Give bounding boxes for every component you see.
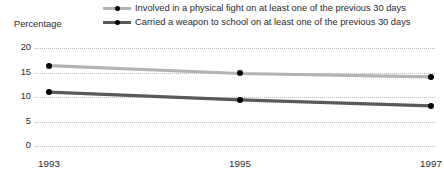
x-axis-tick-labels: 199319951997	[35, 158, 435, 172]
y-axis-tick-label: 5	[5, 117, 31, 126]
legend-item-carried-weapon: Carried a weapon to school on at least o…	[103, 16, 443, 29]
chart-legend: Involved in a physical fight on at least…	[103, 2, 443, 30]
y-axis-tick-label: 15	[5, 68, 31, 77]
data-point-marker	[237, 97, 243, 103]
legend-marker-physical-fight	[115, 6, 120, 11]
gridline	[35, 146, 435, 147]
x-axis-tick-label: 1997	[420, 158, 442, 170]
legend-label-physical-fight: Involved in a physical fight on at least…	[135, 3, 406, 14]
y-axis-title: Percentage	[14, 19, 62, 29]
legend-marker-carried-weapon	[115, 20, 120, 25]
x-axis-tick-label: 1993	[38, 158, 60, 170]
legend-label-carried-weapon: Carried a weapon to school on at least o…	[135, 17, 410, 28]
data-point-marker	[428, 103, 434, 109]
plot-area	[35, 48, 435, 146]
series-lines	[35, 48, 435, 146]
data-point-marker	[428, 74, 434, 80]
y-axis-tick-label: 10	[5, 92, 31, 101]
y-axis-tick-label: 20	[5, 43, 31, 52]
data-point-marker	[46, 63, 52, 69]
x-axis-tick-label: 1995	[229, 158, 251, 170]
y-axis-tick-labels: 20151050	[0, 48, 31, 146]
legend-swatch-physical-fight	[103, 3, 131, 14]
y-axis-tick-label: 0	[5, 141, 31, 150]
legend-swatch-carried-weapon	[103, 17, 131, 28]
legend-item-physical-fight: Involved in a physical fight on at least…	[103, 2, 443, 15]
